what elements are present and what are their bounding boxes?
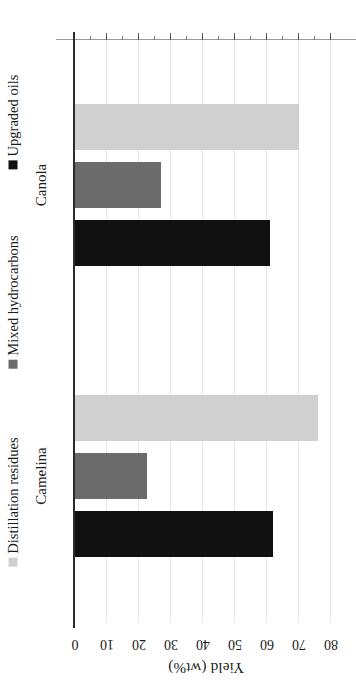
axis-tick	[170, 33, 171, 40]
axis-minor-tick	[154, 36, 155, 40]
axis-tick	[234, 33, 235, 40]
legend-label: Distillation residues	[5, 437, 21, 553]
axis-tick	[298, 33, 299, 40]
chart-legend: Upgraded oilsMixed hydrocarbonsDistillat…	[0, 40, 26, 622]
legend-swatch-icon	[9, 160, 18, 169]
bar-canola-upgraded-oils[interactable]	[75, 221, 270, 267]
bar-camelina-mixed-hydrocarbons[interactable]	[75, 454, 147, 500]
bar-camelina-distillation-residues[interactable]	[75, 396, 318, 442]
category-axis-labels: CamelinaCanola	[26, 40, 56, 622]
value-axis-tick-labels: 01020304050607080	[56, 626, 356, 652]
axis-minor-tick	[282, 36, 283, 40]
axis-minor-tick	[122, 36, 123, 40]
axis-minor-tick	[90, 36, 91, 40]
legend-label: Upgraded oils	[5, 75, 21, 157]
axis-minor-tick	[250, 36, 251, 40]
axis-tick	[266, 33, 267, 40]
plot-area	[56, 40, 356, 622]
legend-entry-upgraded-oils[interactable]: Upgraded oils	[5, 75, 22, 170]
bar-camelina-upgraded-oils[interactable]	[75, 512, 273, 558]
axis-minor-tick	[186, 36, 187, 40]
legend-entry-mixed-hydrocarbons[interactable]: Mixed hydrocarbons	[5, 235, 22, 368]
axis-tick	[202, 33, 203, 40]
axis-tick	[138, 33, 139, 40]
axis-minor-tick	[218, 36, 219, 40]
value-axis-title: Yield (wt%)	[56, 659, 356, 676]
legend-label: Mixed hydrocarbons	[5, 235, 21, 355]
axis-tick	[106, 33, 107, 40]
bar-canola-distillation-residues[interactable]	[75, 105, 299, 151]
legend-entry-distillation-residues[interactable]: Distillation residues	[5, 437, 22, 566]
bar-chart-figure: Yield (wt%) 01020304050607080 CamelinaCa…	[0, 0, 356, 698]
bar-canola-mixed-hydrocarbons[interactable]	[75, 163, 161, 209]
category-label-canola: Canola	[33, 164, 50, 207]
legend-swatch-icon	[9, 360, 18, 369]
gridline	[330, 40, 331, 622]
tick-label-80: 80	[311, 636, 351, 652]
axis-minor-tick	[314, 36, 315, 40]
axis-tick	[330, 33, 331, 40]
category-label-camelina: Camelina	[33, 448, 50, 505]
legend-swatch-icon	[9, 558, 18, 567]
rotated-figure-wrapper: Yield (wt%) 01020304050607080 CamelinaCa…	[0, 0, 356, 698]
axis-baseline	[56, 39, 356, 40]
